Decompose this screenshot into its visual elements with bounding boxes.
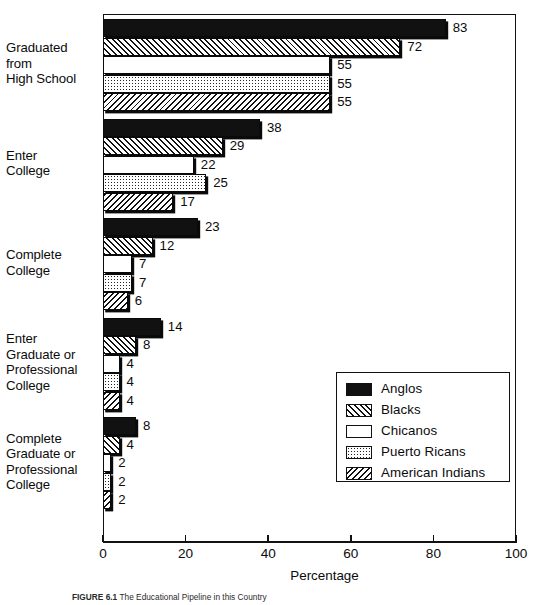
figure-number: FIGURE 6.1 <box>72 592 117 602</box>
legend-item-blacks: Blacks <box>346 400 509 420</box>
bar-row: 14 <box>103 318 516 336</box>
category-label-line: Graduated <box>6 40 102 56</box>
x-tick-label: 80 <box>426 546 441 561</box>
x-tick <box>433 535 435 542</box>
legend-label: Puerto Ricans <box>381 445 466 459</box>
bar-value-label: 4 <box>127 438 134 451</box>
bar-row: 55 <box>103 56 516 74</box>
bar-blacks <box>103 237 153 255</box>
category-label-2: EnterCollege <box>6 148 102 179</box>
legend-label: Chicanos <box>381 424 437 438</box>
bar-chicanos <box>103 454 111 472</box>
bar-blacks <box>103 336 136 354</box>
bar-value-label: 38 <box>267 121 282 134</box>
bar-value-label: 17 <box>180 195 195 208</box>
legend-swatch-solid-black <box>346 383 372 396</box>
bar-row: 4 <box>103 355 516 373</box>
category-label-3: CompleteCollege <box>6 247 102 278</box>
category-label-line: College <box>6 378 102 394</box>
bar-value-label: 4 <box>127 394 134 407</box>
figure-caption-text: The Educational Pipeline in this Country <box>120 592 267 602</box>
legend-item-chicanos: Chicanos <box>346 421 509 441</box>
bar-value-label: 23 <box>205 220 220 233</box>
category-label-line: College <box>6 263 102 279</box>
bar-value-label: 83 <box>453 21 468 34</box>
bar-value-label: 8 <box>143 419 150 432</box>
x-axis-title: Percentage <box>0 568 549 583</box>
bar-puerto-ricans <box>103 174 206 192</box>
bar-value-label: 55 <box>337 96 352 109</box>
bar-value-label: 7 <box>139 257 146 270</box>
x-axis-line <box>103 541 517 543</box>
legend-swatch-dotted <box>346 446 372 459</box>
bar-value-label: 2 <box>118 494 125 507</box>
bar-row: 2 <box>103 491 516 509</box>
bar-row: 55 <box>103 75 516 93</box>
education-pipeline-bar-chart: GraduatedfromHigh SchoolEnterCollegeComp… <box>0 0 549 605</box>
bar-anglos <box>103 218 198 236</box>
legend-swatch-white <box>346 425 372 438</box>
x-tick-label: 0 <box>99 546 107 561</box>
bar-row: 25 <box>103 174 516 192</box>
legend-item-american-indians: American Indians <box>346 463 509 483</box>
bar-anglos <box>103 19 446 37</box>
bar-blacks <box>103 137 223 155</box>
x-tick <box>515 535 517 542</box>
bar-row: 55 <box>103 93 516 111</box>
bar-row: 83 <box>103 19 516 37</box>
category-label-line: Enter <box>6 331 102 347</box>
bar-chicanos <box>103 156 194 174</box>
bar-row: 17 <box>103 193 516 211</box>
bar-american-indians <box>103 292 128 310</box>
bar-puerto-ricans <box>103 473 111 491</box>
bar-anglos <box>103 119 260 137</box>
bar-value-label: 22 <box>201 158 216 171</box>
bar-value-label: 12 <box>160 239 175 252</box>
legend-swatch-diagonal-hatch-right <box>346 467 372 480</box>
bar-row: 12 <box>103 237 516 255</box>
bar-anglos <box>103 318 161 336</box>
legend-swatch-diagonal-hatch-left <box>346 404 372 417</box>
x-tick <box>185 535 187 542</box>
bar-value-label: 7 <box>139 276 146 289</box>
category-label-4: EnterGraduate orProfessionalCollege <box>6 331 102 393</box>
category-label-line: Graduate or <box>6 446 102 462</box>
x-tick-label: 60 <box>343 546 358 561</box>
bar-value-label: 4 <box>127 357 134 370</box>
bar-american-indians <box>103 392 120 410</box>
bar-blacks <box>103 436 120 454</box>
legend-label: American Indians <box>381 466 485 480</box>
bar-blacks <box>103 38 400 56</box>
x-tick <box>267 535 269 542</box>
category-label-line: College <box>6 477 102 493</box>
category-label-line: Graduate or <box>6 347 102 363</box>
bar-value-label: 55 <box>337 77 352 90</box>
bar-american-indians <box>103 93 330 111</box>
category-label-1: GraduatedfromHigh School <box>6 40 102 87</box>
legend: AnglosBlacksChicanosPuerto RicansAmerica… <box>336 372 510 482</box>
category-label-line: Enter <box>6 148 102 164</box>
bar-row: 6 <box>103 292 516 310</box>
x-tick-label: 20 <box>178 546 193 561</box>
bar-value-label: 6 <box>135 295 142 308</box>
bar-chicanos <box>103 56 330 74</box>
bar-value-label: 2 <box>118 456 125 469</box>
bar-value-label: 4 <box>127 376 134 389</box>
category-label-line: Professional <box>6 362 102 378</box>
x-tick-label: 100 <box>505 546 528 561</box>
bar-value-label: 14 <box>168 320 183 333</box>
category-label-5: CompleteGraduate orProfessionalCollege <box>6 431 102 493</box>
legend-item-puerto-ricans: Puerto Ricans <box>346 442 509 462</box>
bar-row: 38 <box>103 119 516 137</box>
category-label-line: Complete <box>6 247 102 263</box>
bar-american-indians <box>103 193 173 211</box>
x-tick <box>350 535 352 542</box>
bar-american-indians <box>103 491 111 509</box>
legend-item-anglos: Anglos <box>346 379 509 399</box>
bar-puerto-ricans <box>103 75 330 93</box>
bar-row: 23 <box>103 218 516 236</box>
bar-value-label: 55 <box>337 58 352 71</box>
category-label-line: College <box>6 163 102 179</box>
figure-caption: FIGURE 6.1 The Educational Pipeline in t… <box>72 592 542 602</box>
x-tick <box>102 535 104 542</box>
